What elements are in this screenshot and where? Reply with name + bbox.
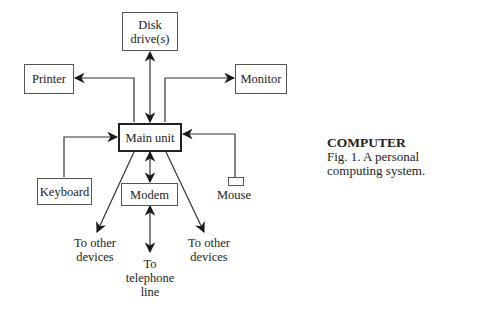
mouse-arrow xyxy=(183,134,235,177)
caption-text: Fig. 1. A personal computing system. xyxy=(327,150,477,178)
keyboard-node: Keyboard xyxy=(37,178,92,205)
telephone-label: To telephone line xyxy=(122,257,178,299)
printer-arrow xyxy=(75,78,134,122)
left-devices-label: To other devices xyxy=(72,236,118,264)
keyboard-arrow xyxy=(64,137,117,177)
main-unit-label: Main unit xyxy=(126,131,175,145)
main-unit-node: Main unit xyxy=(118,123,182,152)
caption-title: COMPUTER xyxy=(327,136,477,150)
mouse-label: Mouse xyxy=(214,188,254,202)
monitor-label: Monitor xyxy=(241,72,282,86)
printer-label: Printer xyxy=(32,72,66,86)
modem-node: Modem xyxy=(121,183,178,206)
figure-caption: COMPUTER Fig. 1. A personal computing sy… xyxy=(327,136,477,178)
monitor-node: Monitor xyxy=(235,64,287,94)
disk-drive-label: Disk drive(s) xyxy=(130,18,170,46)
disk-drive-node: Disk drive(s) xyxy=(122,12,178,51)
mouse-icon xyxy=(228,177,244,186)
modem-label: Modem xyxy=(130,188,169,202)
printer-node: Printer xyxy=(24,64,74,94)
monitor-arrow xyxy=(165,78,234,122)
right-devices-label: To other devices xyxy=(186,236,232,264)
keyboard-label: Keyboard xyxy=(40,185,89,199)
